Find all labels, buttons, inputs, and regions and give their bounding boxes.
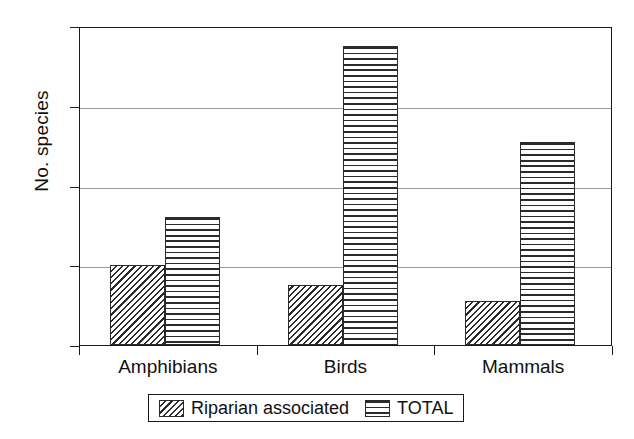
chart-legend: Riparian associatedTOTAL bbox=[148, 394, 464, 422]
y-tick-mark-40 bbox=[70, 27, 79, 28]
legend-entry-riparian-associated: Riparian associated bbox=[159, 398, 349, 419]
bar-mammals-riparian-associated bbox=[465, 301, 520, 345]
bar-mammals-total bbox=[520, 142, 575, 345]
bar-birds-total bbox=[343, 46, 398, 345]
x-category-label-amphibians: Amphibians bbox=[79, 356, 257, 378]
y-tick-mark-0 bbox=[70, 346, 79, 347]
y-tick-mark-10 bbox=[70, 266, 79, 267]
x-tick-mark-3 bbox=[612, 346, 613, 355]
x-category-label-birds: Birds bbox=[257, 356, 435, 378]
bar-amphibians-riparian-associated bbox=[110, 265, 165, 345]
plot-area bbox=[79, 27, 612, 346]
y-tick-mark-30 bbox=[70, 107, 79, 108]
y-axis-label: No. species bbox=[31, 11, 53, 271]
x-tick-mark-2 bbox=[434, 346, 435, 355]
legend-label: TOTAL bbox=[397, 398, 453, 419]
y-tick-mark-20 bbox=[70, 187, 79, 188]
legend-swatch-horizontal-lines-icon bbox=[365, 400, 390, 417]
legend-swatch-diagonal-hatch-icon bbox=[159, 400, 184, 417]
x-category-label-mammals: Mammals bbox=[434, 356, 612, 378]
legend-label: Riparian associated bbox=[191, 398, 349, 419]
x-tick-mark-1 bbox=[257, 346, 258, 355]
bar-birds-riparian-associated bbox=[288, 285, 343, 345]
bar-chart-figure: No. species 010203040 AmphibiansBirdsMam… bbox=[0, 0, 634, 439]
bar-amphibians-total bbox=[165, 217, 220, 345]
x-tick-mark-0 bbox=[79, 346, 80, 355]
legend-entry-total: TOTAL bbox=[365, 398, 453, 419]
